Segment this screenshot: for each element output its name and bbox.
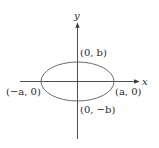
y-axis-label: y (73, 10, 80, 21)
point-label-bottom: (0, −b) (80, 104, 115, 115)
ellipse-diagram: x y (0, b) (0, −b) (−a, 0) (a, 0) (0, 0, 159, 148)
point-label-right: (a, 0) (115, 86, 142, 97)
point-label-left: (−a, 0) (6, 86, 41, 97)
point-label-top: (0, b) (80, 47, 107, 58)
x-axis-label: x (142, 76, 148, 87)
